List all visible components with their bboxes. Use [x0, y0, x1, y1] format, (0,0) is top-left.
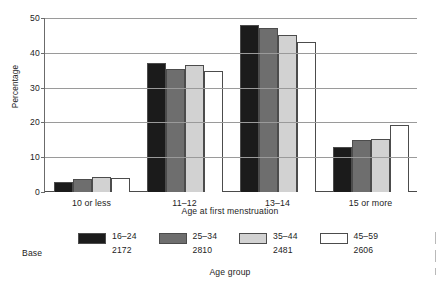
bar[interactable]	[352, 140, 371, 192]
bar[interactable]	[147, 63, 166, 192]
bar[interactable]	[73, 179, 92, 192]
legend: Base 16–24217225–34281035–44248145–59260…	[0, 230, 445, 281]
legend-swatch	[320, 233, 348, 244]
legend-series-label: 45–59	[354, 231, 379, 241]
bar-group: 15 or more	[324, 18, 417, 192]
gridline	[45, 18, 417, 19]
legend-title: Age group	[150, 267, 310, 277]
y-axis-tick-label: 20	[14, 117, 40, 127]
bar[interactable]	[240, 25, 259, 192]
bar[interactable]	[54, 182, 73, 192]
bar[interactable]	[92, 177, 111, 192]
legend-base-count: 2606	[354, 245, 374, 255]
legend-base-count: 2172	[112, 245, 132, 255]
legend-series-label: 16–24	[112, 231, 137, 241]
bar[interactable]	[185, 65, 204, 192]
legend-item[interactable]: 16–242172	[78, 230, 159, 264]
plot-area: Percentage 01020304050 10 or less11–1213…	[0, 0, 445, 200]
scan-artifact	[435, 268, 436, 275]
y-axis-tick-label: 0	[14, 187, 40, 197]
bar-groups: 10 or less11–1213–1415 or more	[45, 18, 417, 192]
scan-artifact	[435, 232, 436, 244]
bar-group-bars	[138, 18, 231, 192]
bar-group: 10 or less	[45, 18, 138, 192]
gridline	[45, 157, 417, 158]
bar-group: 13–14	[231, 18, 324, 192]
bar[interactable]	[390, 125, 409, 192]
plot-canvas: 10 or less11–1213–1415 or more	[44, 18, 417, 192]
bar[interactable]	[371, 139, 390, 192]
gridline	[45, 53, 417, 54]
legend-item[interactable]: 45–592606	[320, 230, 401, 264]
legend-swatch	[239, 233, 267, 244]
x-axis-title: Age at first menstruation	[44, 206, 416, 216]
legend-item[interactable]: 35–442481	[239, 230, 320, 264]
y-axis-tick-label: 50	[14, 13, 40, 23]
y-axis-tick-label: 40	[14, 48, 40, 58]
legend-base-count: 2810	[193, 245, 213, 255]
bar[interactable]	[297, 42, 316, 192]
bar-group-bars	[231, 18, 324, 192]
gridline	[45, 122, 417, 123]
bar[interactable]	[111, 178, 130, 192]
legend-base-count: 2481	[273, 245, 293, 255]
legend-swatch	[78, 233, 106, 244]
bar-group: 11–12	[138, 18, 231, 192]
bar[interactable]	[278, 35, 297, 192]
legend-item[interactable]: 25–342810	[159, 230, 240, 264]
y-axis-tick-labels: 01020304050	[14, 0, 40, 200]
legend-series-label: 25–34	[193, 231, 218, 241]
bar[interactable]	[204, 71, 223, 192]
gridline	[45, 88, 417, 89]
base-row-label: Base	[22, 248, 42, 258]
chart-figure: Percentage 01020304050 10 or less11–1213…	[0, 0, 445, 281]
legend-swatch	[159, 233, 187, 244]
y-axis-tickmark	[41, 192, 45, 193]
bar-group-bars	[45, 18, 138, 192]
bar-group-bars	[324, 18, 417, 192]
scan-artifact	[435, 250, 436, 262]
legend-series-label: 35–44	[273, 231, 298, 241]
legend-items: 16–24217225–34281035–44248145–592606	[78, 230, 400, 264]
y-axis-tick-label: 10	[14, 152, 40, 162]
bar[interactable]	[333, 147, 352, 192]
y-axis-tick-label: 30	[14, 83, 40, 93]
